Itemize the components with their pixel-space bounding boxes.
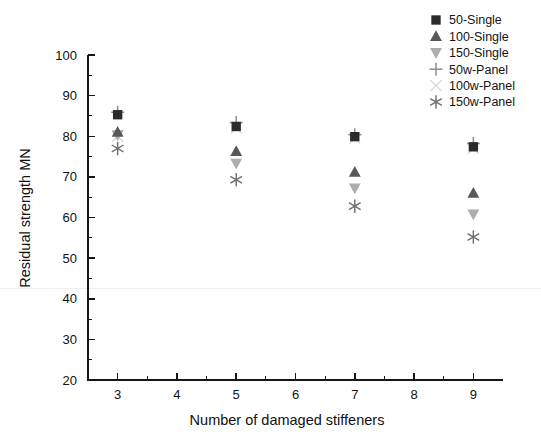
legend-marker-triangle-up-icon [430, 30, 442, 41]
series-100-single [112, 126, 480, 198]
legend-marker-triangle-down-icon [430, 48, 442, 59]
data-point [468, 230, 480, 244]
x-tick-label: 9 [470, 387, 477, 402]
legend-item-150-single[interactable]: 150-Single [430, 46, 509, 60]
data-point [230, 173, 242, 187]
legend-marker-plus-icon [430, 63, 443, 76]
series-50-single [113, 110, 478, 151]
y-tick-label: 80 [63, 129, 77, 144]
legend-label: 150-Single [449, 46, 509, 60]
legend-marker-asterisk-icon [430, 95, 442, 109]
legend-item-50w-panel[interactable]: 50w-Panel [430, 63, 509, 77]
data-point [350, 132, 359, 141]
data-points [111, 106, 480, 244]
legend-item-100w-panel[interactable]: 100w-Panel [431, 79, 515, 93]
x-axis-ticks [118, 373, 474, 380]
legend-marker-square-icon [431, 15, 440, 24]
legend-label: 50w-Panel [449, 63, 508, 77]
legend-marker-cross-icon [431, 80, 442, 91]
legend-label: 50-Single [449, 13, 502, 27]
data-point [349, 184, 361, 195]
data-point [232, 122, 241, 131]
y-tick-label: 40 [63, 291, 77, 306]
data-point [467, 210, 479, 221]
x-tick-label: 8 [410, 387, 417, 402]
x-tick-label: 3 [114, 387, 121, 402]
legend: 50-Single100-Single150-Single50w-Panel10… [430, 13, 515, 109]
series-100w-panel [112, 123, 479, 154]
legend-item-150w-panel[interactable]: 150w-Panel [430, 95, 515, 109]
legend-item-50-single[interactable]: 50-Single [431, 13, 502, 27]
series-150-single [112, 130, 480, 220]
series-150w-panel [112, 142, 479, 244]
legend-label: 100-Single [449, 30, 509, 44]
legend-item-100-single[interactable]: 100-Single [430, 30, 509, 44]
x-axis-tick-labels: 3456789 [114, 387, 477, 402]
y-tick-label: 60 [63, 210, 77, 225]
legend-label: 100w-Panel [449, 79, 515, 93]
y-tick-label: 90 [63, 88, 77, 103]
y-axis-title: Residual strength MN [17, 148, 33, 287]
axis-lines [88, 55, 503, 380]
scatter-plot: 3456789 2030405060708090100 50-Single100… [0, 0, 541, 447]
data-point [230, 145, 242, 156]
series-50w-panel [111, 106, 480, 150]
y-tick-label: 70 [63, 169, 77, 184]
data-point [349, 166, 361, 177]
data-point [112, 142, 124, 156]
data-point [349, 199, 361, 213]
y-tick-label: 100 [55, 48, 77, 63]
y-axis-ticks [88, 55, 95, 380]
x-tick-label: 7 [351, 387, 358, 402]
legend-label: 150w-Panel [449, 95, 515, 109]
data-point [113, 110, 122, 119]
y-axis-tick-labels: 2030405060708090100 [55, 48, 77, 388]
x-tick-label: 4 [173, 387, 180, 402]
data-point [467, 187, 479, 198]
y-tick-label: 20 [63, 373, 77, 388]
x-tick-label: 6 [292, 387, 299, 402]
data-point [469, 142, 478, 151]
y-tick-label: 50 [63, 251, 77, 266]
data-point [230, 159, 242, 170]
x-tick-label: 5 [233, 387, 240, 402]
y-tick-label: 30 [63, 332, 77, 347]
chart-container: 3456789 2030405060708090100 50-Single100… [0, 0, 541, 447]
x-axis-title: Number of damaged stiffeners [190, 412, 385, 428]
